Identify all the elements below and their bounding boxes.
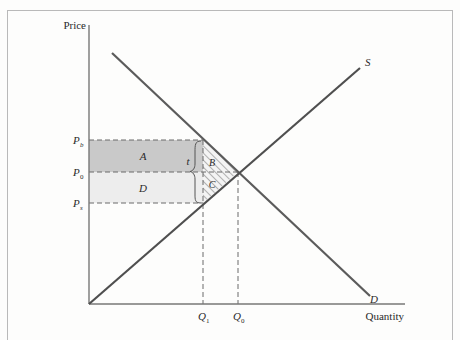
figure-page: Price Quantity S D P b P 0 P s Q 1 Q 0 A… [0, 0, 460, 340]
y-axis-label: Price [63, 19, 86, 31]
price-label-ps: P s [72, 197, 83, 212]
svg-text:s: s [80, 204, 83, 212]
region-b-label: B [209, 157, 215, 168]
price-label-p0: P 0 [72, 166, 84, 181]
demand-label: D [369, 293, 378, 305]
svg-text:P: P [72, 134, 80, 146]
x-axis-label: Quantity [366, 310, 405, 322]
svg-text:0: 0 [241, 317, 245, 325]
quantity-label-q1: Q 1 [198, 310, 210, 325]
region-a-label: A [139, 150, 147, 162]
region-d-label: D [138, 182, 147, 194]
supply-label: S [365, 56, 371, 68]
svg-text:P: P [72, 197, 80, 209]
region-c-label: C [209, 179, 216, 190]
svg-text:Q: Q [233, 310, 241, 322]
quantity-label-q0: Q 0 [233, 310, 245, 325]
svg-text:1: 1 [206, 317, 210, 325]
tax-incidence-diagram: Price Quantity S D P b P 0 P s Q 1 Q 0 A… [0, 0, 460, 340]
svg-text:P: P [72, 166, 80, 178]
svg-text:0: 0 [80, 173, 84, 181]
price-label-pb: P b [72, 134, 84, 149]
svg-text:b: b [80, 141, 84, 149]
svg-text:Q: Q [198, 310, 206, 322]
